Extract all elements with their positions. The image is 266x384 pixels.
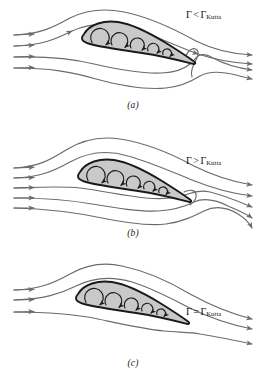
gamma-label-b: Γ>ΓKutta <box>186 155 221 166</box>
inlet-streamline-2 <box>14 299 34 300</box>
gamma-label-a: Γ<ΓKutta <box>186 9 221 20</box>
inlet-streamline-1 <box>14 167 34 168</box>
panel-caption-b: (b) <box>0 228 266 238</box>
gamma-subscript-a: Kutta <box>206 13 221 20</box>
kutta-condition-figure: Γ<ΓKutta (a) <box>0 0 266 384</box>
inlet-streamlines <box>14 289 34 312</box>
gamma-symbol-c: Γ <box>186 306 192 317</box>
streamline-lower-3 <box>14 208 252 228</box>
gamma-subscript-b: Kutta <box>206 159 221 166</box>
inlet-streamline-2 <box>14 45 34 46</box>
panel-caption-a: (a) <box>0 100 266 110</box>
gamma-symbol-a: Γ <box>186 9 192 20</box>
gamma-subscript-c: Kutta <box>206 310 221 317</box>
streamline-group-lower <box>14 187 252 228</box>
streamline-lower-1 <box>14 55 252 74</box>
inlet-streamline-1 <box>14 289 34 290</box>
inlet-streamline-2 <box>14 177 34 178</box>
streamline-group-lower <box>14 55 252 89</box>
panel-b: Γ>ΓKutta (b) <box>0 128 266 256</box>
gamma-operator-c: = <box>193 306 199 317</box>
inlet-streamline-1 <box>14 34 34 35</box>
panel-c: Γ=ΓKutta (c) <box>0 256 266 384</box>
inlet-streamlines <box>14 34 34 68</box>
panel-c-diagram <box>0 256 266 366</box>
panel-a: Γ<ΓKutta (a) <box>0 0 266 128</box>
panel-b-diagram <box>0 128 266 238</box>
gamma-label-c: Γ=ΓKutta <box>186 306 221 317</box>
gamma-operator-a: < <box>193 9 199 20</box>
gamma-operator-b: > <box>193 155 199 166</box>
gamma-symbol-b: Γ <box>186 155 192 166</box>
panel-caption-c: (c) <box>0 358 266 368</box>
panel-a-diagram <box>0 0 266 110</box>
